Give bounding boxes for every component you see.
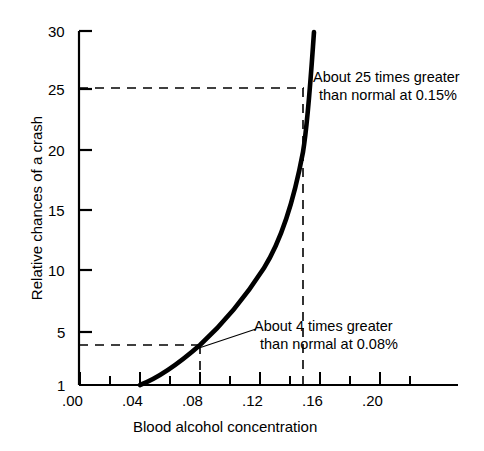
annotation-25x-line1: About 25 times greater <box>313 69 460 85</box>
x-tick-label-00: .00 <box>62 393 83 408</box>
y-tick-marks <box>79 31 92 332</box>
y-tick-label-1: 1 <box>57 378 65 393</box>
crash-risk-chart: Relative chances of a crash 30 25 20 15 … <box>0 0 484 451</box>
y-tick-label-5: 5 <box>57 325 65 340</box>
y-tick-label-30: 30 <box>48 24 65 39</box>
y-tick-label-15: 15 <box>48 203 65 218</box>
annotation-25x-line2: than normal at 0.15% <box>313 87 460 105</box>
x-tick-marks <box>80 372 410 385</box>
annotation-4x-line1: About 4 times greater <box>254 318 393 334</box>
x-tick-label-04: .04 <box>122 393 143 408</box>
y-tick-label-10: 10 <box>48 263 65 278</box>
annotation-4x: About 4 times greater than normal at 0.0… <box>254 318 398 353</box>
x-axis-title: Blood alcohol concentration <box>133 419 317 434</box>
annotation-4x-line2: than normal at 0.08% <box>254 336 398 354</box>
y-axis-title: Relative chances of a crash <box>28 116 45 300</box>
chart-canvas: Relative chances of a crash <box>0 0 484 451</box>
x-tick-label-20: .20 <box>362 393 383 408</box>
y-tick-label-25: 25 <box>48 82 65 97</box>
y-tick-label-20: 20 <box>48 143 65 158</box>
x-tick-label-12: .12 <box>242 393 263 408</box>
x-tick-label-16: .16 <box>302 393 323 408</box>
annotation-25x: About 25 times greater than normal at 0.… <box>313 69 460 104</box>
x-tick-label-08: .08 <box>182 393 203 408</box>
